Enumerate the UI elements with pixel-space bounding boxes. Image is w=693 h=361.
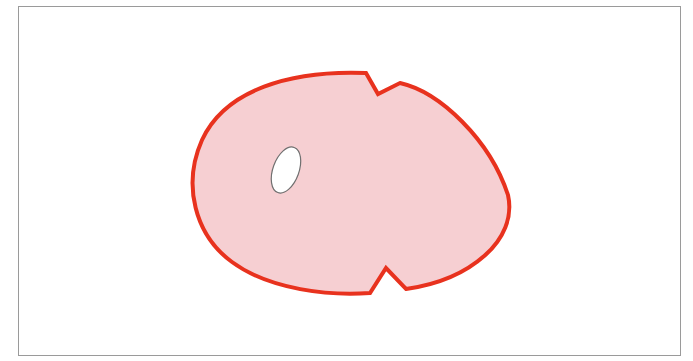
blob-diagram: [0, 0, 693, 361]
notched-blob-shape: [193, 73, 510, 294]
